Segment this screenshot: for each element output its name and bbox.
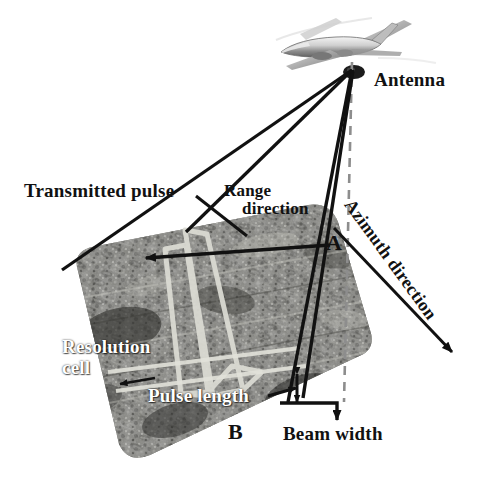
label-range-direction-line1: Range xyxy=(224,181,271,200)
label-resolution-cell-line2: cell xyxy=(62,358,151,377)
label-point-a: A xyxy=(326,232,342,254)
beam-ray-far xyxy=(62,70,352,270)
label-resolution-cell-line1: Resolution xyxy=(62,336,151,357)
range-direction-arrow xyxy=(146,245,330,258)
label-point-b: B xyxy=(228,421,243,443)
beam-width-leader-arrow xyxy=(280,403,337,420)
label-beam-width: Beam width xyxy=(283,424,383,443)
pulse-length-extent-arrow xyxy=(120,378,155,384)
label-range-direction: Range direction xyxy=(224,182,309,217)
sar-geometry-figure: Transmitted pulse Antenna Range directio… xyxy=(0,0,504,503)
label-antenna: Antenna xyxy=(374,70,445,89)
label-resolution-cell: Resolution cell xyxy=(62,337,151,377)
pulse-length-arrow xyxy=(268,388,296,396)
label-transmitted-pulse: Transmitted pulse xyxy=(24,181,174,200)
label-pulse-length: Pulse length xyxy=(148,386,249,405)
label-range-direction-line2: direction xyxy=(242,200,309,217)
